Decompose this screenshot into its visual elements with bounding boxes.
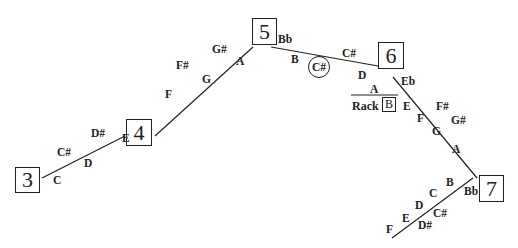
- note-e-flat: Eb: [401, 76, 415, 88]
- note-d: D: [84, 158, 92, 170]
- position-box-5: 5: [252, 18, 277, 45]
- note-d-2: D: [358, 70, 366, 82]
- note-f-3: F: [386, 224, 393, 236]
- note-c-sharp-2: C#: [342, 48, 356, 60]
- note-g-sharp-2: G#: [451, 115, 466, 127]
- note-f-sharp-2: F#: [436, 101, 449, 113]
- position-label: 4: [134, 122, 145, 144]
- note-f: F: [165, 89, 172, 101]
- position-label: 5: [259, 21, 270, 43]
- position-box-7: 7: [479, 175, 504, 202]
- note-b: B: [291, 54, 299, 66]
- note-c-3: C: [429, 188, 437, 200]
- note-f-sharp: F#: [176, 60, 189, 72]
- note-e-3: E: [402, 213, 410, 225]
- note-d-sharp: D#: [91, 128, 105, 140]
- circled-note-c-sharp: C#: [308, 56, 330, 78]
- position-label: 6: [386, 45, 397, 67]
- note-g-2: G: [432, 126, 441, 138]
- note-b-flat: Bb: [278, 34, 292, 46]
- circled-note-label: C#: [312, 61, 326, 73]
- note-d-sharp-3: D#: [418, 220, 432, 232]
- note-e-2: E: [403, 101, 411, 113]
- note-c-sharp: C#: [57, 147, 71, 159]
- rack-note-a: A: [370, 84, 378, 96]
- rack-box-b: B: [382, 97, 396, 112]
- note-g: G: [202, 74, 211, 86]
- note-a-2: A: [452, 144, 460, 156]
- rack-note-b: B: [385, 97, 393, 112]
- position-label: 3: [22, 169, 33, 191]
- note-a: A: [236, 56, 244, 68]
- note-f-2: F: [417, 113, 424, 125]
- note-g-sharp: G#: [212, 44, 227, 56]
- note-e: E: [122, 133, 130, 145]
- note-c-sharp-3: C#: [433, 208, 447, 220]
- note-b-flat-3: Bb: [464, 186, 478, 198]
- position-label: 7: [486, 178, 497, 200]
- note-d-3: D: [415, 200, 423, 212]
- rack-label: Rack: [352, 100, 379, 112]
- position-box-3: 3: [15, 167, 40, 193]
- note-b-3: B: [446, 177, 454, 189]
- slide-position-diagram: 3 4 5 6 7 C C# D D# E F F# G G# A Bb B C…: [0, 0, 518, 248]
- note-c: C: [53, 175, 61, 187]
- position-box-6: 6: [378, 42, 404, 69]
